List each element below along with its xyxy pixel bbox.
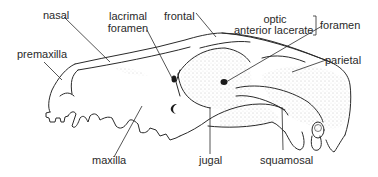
crescent-foramen: [171, 104, 177, 114]
label-lacrimal-foramen: foramen: [106, 23, 150, 34]
leader-premaxilla: [44, 62, 62, 80]
label-foramen: foramen: [320, 20, 360, 31]
label-nasal: nasal: [43, 10, 69, 21]
skull-diagram: nasal lacrimal foramen frontal optic ant…: [0, 0, 378, 177]
label-anterior-lacerate: anterior lacerate: [234, 25, 314, 36]
leader-maxilla: [114, 106, 142, 157]
label-parietal: parietal: [325, 55, 361, 66]
stippled-areas: [115, 47, 350, 128]
label-jugal: jugal: [199, 155, 222, 166]
label-frontal: frontal: [164, 11, 195, 22]
label-squamosal: squamosal: [260, 155, 313, 166]
lacrimal-foramen-dot: [172, 76, 177, 83]
leader-frontal: [196, 13, 216, 37]
label-lacrimal: lacrimal: [106, 11, 150, 22]
label-maxilla: maxilla: [92, 155, 126, 166]
leader-nasal: [64, 17, 110, 62]
leader-lacrimal-foramen: [147, 30, 172, 78]
leader-squamosal: [282, 107, 283, 150]
label-premaxilla: premaxilla: [17, 49, 67, 60]
